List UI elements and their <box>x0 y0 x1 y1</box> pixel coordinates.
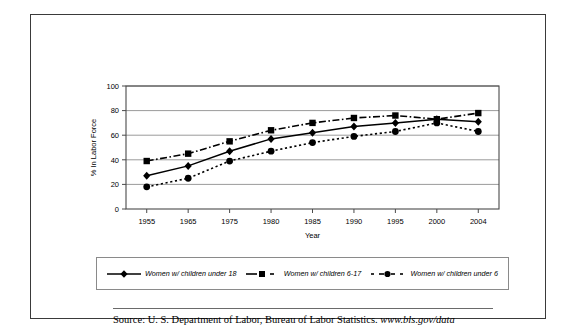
legend-item-2: Women w/ children under 6 <box>371 268 499 280</box>
x-tick-label: 1955 <box>138 217 155 226</box>
data-point <box>144 158 150 164</box>
diamond-marker-icon <box>107 268 141 280</box>
data-point <box>143 183 150 190</box>
plot-border <box>126 86 499 209</box>
data-point <box>351 133 358 140</box>
legend-item-1: Women w/ children 6-17 <box>246 268 362 280</box>
chart-legend: Women w/ children under 18 Women w/ chil… <box>96 257 509 290</box>
y-tick-label: 80 <box>111 106 119 115</box>
data-point <box>309 120 315 126</box>
data-point <box>226 138 232 144</box>
x-tick-label: 2004 <box>470 217 487 226</box>
x-tick-label: 1965 <box>180 217 197 226</box>
source-prefix: Source: U. S. Department of Labor, Burea… <box>113 314 378 325</box>
data-point <box>185 175 192 182</box>
y-tick-label: 100 <box>106 82 119 91</box>
data-point <box>226 158 233 165</box>
x-tick-label: 2000 <box>428 217 445 226</box>
data-point <box>433 120 440 127</box>
source-caption: Source: U. S. Department of Labor, Burea… <box>113 314 533 325</box>
x-tick-label: 1990 <box>346 217 363 226</box>
y-axis-title: % In Labor Force <box>89 119 98 177</box>
x-tick-label: 1995 <box>387 217 404 226</box>
data-point <box>267 135 274 143</box>
square-marker-icon <box>246 268 280 280</box>
legend-label-0: Women w/ children under 18 <box>145 269 237 278</box>
legend-item-0: Women w/ children under 18 <box>107 268 237 280</box>
data-point <box>392 119 399 127</box>
y-tick-label: 40 <box>111 156 119 165</box>
line-chart: 0204060801001955196519751980198519901995… <box>31 15 547 255</box>
source-divider <box>113 308 493 309</box>
data-point <box>143 172 150 180</box>
y-tick-label: 60 <box>111 131 119 140</box>
data-point <box>475 128 482 135</box>
y-tick-label: 0 <box>115 205 119 214</box>
x-tick-label: 1975 <box>221 217 238 226</box>
source-url: www.bls.gov/data <box>380 314 454 325</box>
data-point <box>226 147 233 155</box>
data-point <box>268 127 274 133</box>
circle-marker-icon <box>371 268 407 280</box>
data-point <box>475 118 482 126</box>
data-point <box>392 112 398 118</box>
data-point <box>185 150 191 156</box>
data-point <box>351 115 357 121</box>
page-border: 0204060801001955196519751980198519901995… <box>30 14 546 319</box>
data-point <box>350 123 357 131</box>
data-point <box>185 162 192 170</box>
x-tick-label: 1985 <box>304 217 321 226</box>
data-point <box>392 128 399 135</box>
chart-container: 0204060801001955196519751980198519901995… <box>31 15 547 255</box>
y-tick-label: 20 <box>111 180 119 189</box>
series-line-0 <box>147 119 479 176</box>
legend-label-1: Women w/ children 6-17 <box>284 269 362 278</box>
x-axis-title: Year <box>305 231 321 240</box>
data-point <box>309 139 316 146</box>
x-tick-label: 1980 <box>263 217 280 226</box>
data-point <box>475 110 481 116</box>
data-point <box>268 148 275 155</box>
legend-label-2: Women w/ children under 6 <box>411 269 499 278</box>
